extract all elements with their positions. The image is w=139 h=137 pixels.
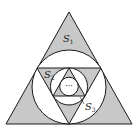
nested-triangles-circles-diagram: S1 S2 S3 ··· [0, 0, 139, 137]
ellipsis-label: ··· [65, 82, 73, 91]
